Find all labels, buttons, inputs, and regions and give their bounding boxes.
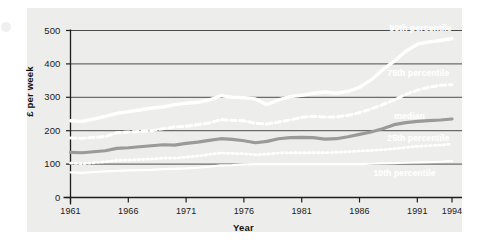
y-tick-label: 400 xyxy=(35,58,61,69)
series-label-75th-percentile: 75th percentile xyxy=(387,68,449,78)
x-tick-label: 1986 xyxy=(340,206,380,216)
x-tick-label: 1971 xyxy=(166,206,206,216)
x-tick-label: 1981 xyxy=(282,206,322,216)
x-axis-title: Year xyxy=(0,222,487,233)
series-label-25th-percentile: 25th percentile xyxy=(387,133,449,143)
y-tick-label: 500 xyxy=(35,25,61,36)
figure-container: 0100200300400500 19611966197119761981198… xyxy=(0,0,487,247)
x-tick-label: 1976 xyxy=(224,206,264,216)
x-tick-label: 1994 xyxy=(432,206,472,216)
y-tick-label: 100 xyxy=(35,158,61,169)
series-label-10th-percentile: 10th percentile xyxy=(373,168,435,178)
y-axis-title: £ per week xyxy=(24,50,35,134)
x-tick-label: 1961 xyxy=(51,206,91,216)
series-line-90th-percentile xyxy=(71,39,453,122)
series-label-median: median xyxy=(394,111,425,121)
y-tick-label: 200 xyxy=(35,125,61,136)
y-tick-label: 0 xyxy=(35,192,61,203)
y-tick-label: 300 xyxy=(35,91,61,102)
x-tick-label: 1966 xyxy=(108,206,148,216)
series-label-90th-percentile: 90th percentile xyxy=(390,23,452,33)
